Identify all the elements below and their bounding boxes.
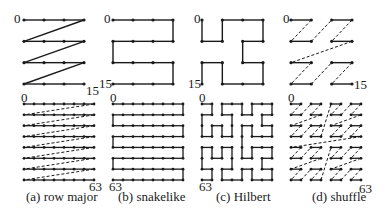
grid-node xyxy=(162,135,165,138)
grid-node xyxy=(23,113,26,116)
grid-node xyxy=(171,82,174,85)
grid-node xyxy=(23,157,26,160)
grid-node xyxy=(290,168,293,171)
grid-node xyxy=(23,135,26,138)
grid-node xyxy=(172,179,175,182)
grid-node xyxy=(330,179,333,182)
curve-jump-segment xyxy=(291,20,311,41)
curve-jump-segment xyxy=(291,147,301,158)
grid-node xyxy=(350,168,353,171)
grid-node xyxy=(23,124,26,127)
grid-node xyxy=(251,179,254,182)
grid-node xyxy=(340,113,343,116)
grid-node xyxy=(152,135,155,138)
panel-c-small-curve xyxy=(200,18,264,85)
grid-node xyxy=(22,61,25,64)
curve-jump-segment xyxy=(311,126,321,137)
curve-segment xyxy=(24,20,84,41)
grid-node xyxy=(330,103,333,106)
grid-node xyxy=(330,18,333,21)
grid-node xyxy=(221,168,224,171)
grid-node xyxy=(241,135,244,138)
grid-node xyxy=(132,113,135,116)
grid-node xyxy=(182,113,185,116)
panel-c-large-curve xyxy=(201,103,274,182)
grid-node xyxy=(261,135,264,138)
curve-jump-segment xyxy=(291,126,301,137)
grid-node xyxy=(310,157,313,160)
grid-node xyxy=(261,124,264,127)
grid-node xyxy=(162,103,165,106)
grid-node xyxy=(22,82,25,85)
grid-node xyxy=(182,103,185,106)
grid-node xyxy=(290,135,293,138)
curve-jump-segment xyxy=(331,115,361,126)
grid-node xyxy=(231,135,234,138)
grid-node xyxy=(182,168,185,171)
grid-node xyxy=(251,103,254,106)
grid-node xyxy=(211,168,214,171)
grid-node xyxy=(42,40,45,43)
grid-node xyxy=(330,82,333,85)
grid-node xyxy=(221,157,224,160)
curve-jump-segment xyxy=(24,137,94,148)
curve-jump-segment xyxy=(311,63,331,84)
curve-jump-segment xyxy=(311,169,321,180)
grid-node xyxy=(182,135,185,138)
grid-node xyxy=(162,113,165,116)
grid-node xyxy=(310,113,313,116)
panel-b-large-start-label: 0 xyxy=(110,91,117,104)
grid-node xyxy=(211,146,214,149)
grid-node xyxy=(152,146,155,149)
grid-node xyxy=(340,146,343,149)
grid-node xyxy=(350,135,353,138)
curve-jump-segment xyxy=(331,158,361,169)
grid-node xyxy=(83,179,86,182)
grid-node xyxy=(182,179,185,182)
curve-jump-segment xyxy=(24,147,94,158)
grid-node xyxy=(221,103,224,106)
grid-node xyxy=(82,61,85,64)
grid-node xyxy=(211,124,214,127)
grid-node xyxy=(300,179,303,182)
grid-node xyxy=(152,103,155,106)
grid-node xyxy=(201,135,204,138)
grid-node xyxy=(63,168,66,171)
grid-node xyxy=(320,103,323,106)
grid-node xyxy=(310,18,313,21)
grid-node xyxy=(231,157,234,160)
grid-node xyxy=(289,18,292,21)
grid-node xyxy=(360,168,363,171)
grid-node xyxy=(201,124,204,127)
grid-node xyxy=(211,103,214,106)
grid-node xyxy=(241,146,244,149)
grid-node xyxy=(231,168,234,171)
grid-node xyxy=(182,124,185,127)
grid-node xyxy=(93,168,96,171)
grid-node xyxy=(152,124,155,127)
grid-node xyxy=(300,113,303,116)
grid-node xyxy=(261,168,264,171)
grid-node xyxy=(330,113,333,116)
grid-node xyxy=(82,18,85,21)
grid-node xyxy=(211,157,214,160)
grid-node xyxy=(340,168,343,171)
grid-node xyxy=(360,146,363,149)
curve-jump-segment xyxy=(301,126,311,137)
grid-node xyxy=(261,179,264,182)
grid-node xyxy=(221,135,224,138)
grid-node xyxy=(200,40,203,43)
grid-node xyxy=(251,135,254,138)
grid-node xyxy=(251,157,254,160)
grid-node xyxy=(290,179,293,182)
grid-node xyxy=(112,135,115,138)
grid-node xyxy=(93,135,96,138)
grid-node xyxy=(73,103,76,106)
grid-node xyxy=(142,135,145,138)
curve-jump-segment xyxy=(341,126,351,137)
grid-node xyxy=(360,103,363,106)
grid-node xyxy=(63,146,66,149)
grid-node xyxy=(43,157,46,160)
grid-node xyxy=(290,124,293,127)
panel-d-small-end-label: 15 xyxy=(354,78,367,91)
